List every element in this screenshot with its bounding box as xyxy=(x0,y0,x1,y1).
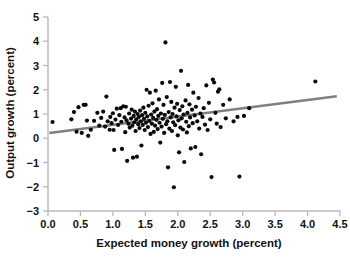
scatter-point xyxy=(146,104,150,108)
scatter-point xyxy=(141,106,145,110)
scatter-point xyxy=(231,119,235,123)
scatter-chart-figure: 0.00.51.01.52.02.53.03.54.04.5 543210−1−… xyxy=(0,0,350,259)
scatter-point xyxy=(143,128,147,132)
scatter-point xyxy=(208,117,212,121)
scatter-point xyxy=(174,85,178,89)
scatter-point xyxy=(217,87,221,91)
scatter-point xyxy=(115,107,119,111)
scatter-point xyxy=(137,126,141,130)
scatter-point xyxy=(200,115,204,119)
scatter-point xyxy=(180,104,184,108)
scatter-point xyxy=(152,130,156,134)
scatter-point xyxy=(113,117,117,121)
scatter-point xyxy=(197,126,201,130)
scatter-point xyxy=(172,185,176,189)
scatter-point xyxy=(50,120,54,124)
scatter-point xyxy=(237,174,241,178)
scatter-point xyxy=(172,106,176,110)
scatter-point xyxy=(184,120,188,124)
scatter-point xyxy=(165,119,169,123)
y-axis-tick-label: 5 xyxy=(33,11,39,23)
x-axis-tick-label: 0.0 xyxy=(40,218,55,230)
scatter-point xyxy=(74,130,78,134)
scatter-point xyxy=(131,156,135,160)
scatter-point xyxy=(155,107,159,111)
x-axis-tick-label: 3.5 xyxy=(267,218,282,230)
scatter-point xyxy=(150,101,154,105)
scatter-point xyxy=(111,111,115,115)
x-axis-tick-label: 2.0 xyxy=(170,218,185,230)
scatter-point xyxy=(157,97,161,101)
scatter-point xyxy=(185,130,189,134)
scatter-point xyxy=(185,111,189,115)
scatter-point xyxy=(228,97,232,101)
scatter-point xyxy=(193,113,197,117)
scatter-point xyxy=(194,105,198,109)
scatter-point xyxy=(179,69,183,73)
scatter-point xyxy=(199,152,203,156)
scatter-point xyxy=(138,109,142,113)
scatter-point xyxy=(126,122,130,126)
scatter-point xyxy=(182,112,186,116)
scatter-point xyxy=(123,130,127,134)
scatter-point xyxy=(80,131,84,135)
y-axis-tick-label: 3 xyxy=(33,60,39,72)
x-axis-tick-label: 1.5 xyxy=(138,218,153,230)
scatter-point xyxy=(92,119,96,123)
scatter-point xyxy=(135,155,139,159)
scatter-point xyxy=(313,79,317,83)
scatter-point xyxy=(219,125,223,129)
scatter-point xyxy=(178,108,182,112)
scatter-point xyxy=(188,115,192,119)
scatter-point xyxy=(174,114,178,118)
scatter-point xyxy=(76,105,80,109)
scatter-point xyxy=(153,124,157,128)
scatter-point xyxy=(168,80,172,84)
scatter-point xyxy=(207,101,211,105)
scatter-point xyxy=(191,121,195,125)
y-axis-tick-label: 4 xyxy=(33,35,40,47)
scatter-point xyxy=(111,128,115,132)
scatter-point xyxy=(224,116,228,120)
x-axis-tick-label: 3.0 xyxy=(235,218,250,230)
scatter-point xyxy=(127,111,131,115)
scatter-point xyxy=(119,120,123,124)
scatter-point xyxy=(146,125,150,129)
scatter-point xyxy=(187,124,191,128)
scatter-point xyxy=(85,118,89,122)
chart-canvas: 0.00.51.01.52.02.53.03.54.04.5 543210−1−… xyxy=(0,0,350,259)
scatter-point xyxy=(134,129,138,133)
scatter-point xyxy=(187,102,191,106)
y-axis-tick-label: 0 xyxy=(33,132,39,144)
scatter-point xyxy=(159,125,163,129)
scatter-point xyxy=(204,83,208,87)
scatter-point xyxy=(154,118,158,122)
scatter-point xyxy=(125,159,129,163)
scatter-point xyxy=(72,110,76,114)
scatter-point xyxy=(112,148,116,152)
scatter-point xyxy=(170,129,174,133)
scatter-point xyxy=(89,128,93,132)
scatter-point xyxy=(156,127,160,131)
scatter-point xyxy=(209,175,213,179)
scatter-point xyxy=(166,165,170,169)
scatter-point xyxy=(203,123,207,127)
scatter-point xyxy=(86,134,90,138)
x-axis-tick-label: 0.5 xyxy=(73,218,88,230)
scatter-point xyxy=(139,143,143,147)
scatter-point xyxy=(190,108,194,112)
scatter-point xyxy=(167,110,171,114)
scatter-point xyxy=(143,111,147,115)
scatter-point xyxy=(165,95,169,99)
scatter-point xyxy=(170,112,174,116)
scatter-point xyxy=(124,105,128,109)
scatter-point xyxy=(202,106,206,110)
scatter-point xyxy=(161,117,165,121)
scatter-point xyxy=(195,119,199,123)
scatter-point xyxy=(120,147,124,151)
scatter-point xyxy=(186,83,190,87)
scatter-point xyxy=(221,103,225,107)
scatter-point xyxy=(183,98,187,102)
x-axis-tick-label: 4.5 xyxy=(332,218,347,230)
y-axis-tick-label: 2 xyxy=(33,84,39,96)
